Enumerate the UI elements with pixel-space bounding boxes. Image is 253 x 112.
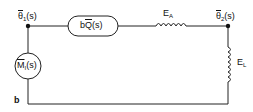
node-right-dot	[226, 24, 230, 28]
ground-label: b	[14, 96, 20, 105]
inductor-right-label: EL	[237, 58, 246, 68]
source-block-label: bQ(s)	[80, 21, 103, 30]
node-right-label: θ2(s)	[216, 12, 235, 22]
inductor-top-label: EA	[163, 9, 173, 19]
node-left-label: θ1(s)	[18, 12, 37, 22]
current-source-label: MI(s)	[17, 61, 37, 71]
node-left-dot	[26, 24, 30, 28]
